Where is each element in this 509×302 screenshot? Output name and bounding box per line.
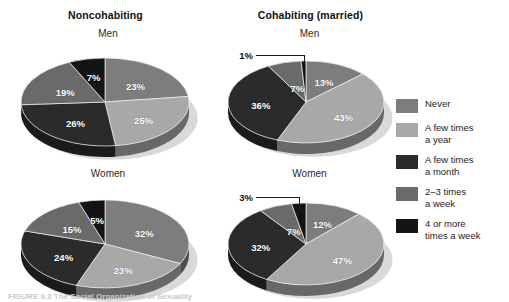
pie-top-faces [228,61,384,143]
pie-sublabel-noncohabiting-men: Men [8,28,208,39]
legend-label: 2–3 times a week [425,186,466,209]
legend-swatch [396,155,418,169]
pie-svg-cohabiting-men [222,28,397,140]
legend-label: A few times a month [425,154,474,177]
callout-tick [299,197,300,206]
legend-swatch [396,219,418,233]
pie-chart-figure: Noncohabiting Cohabiting (married) Men23… [0,0,509,302]
legend-swatch [396,123,418,137]
pie-sublabel-cohabiting-men: Men [222,28,397,39]
pie-slice[interactable] [21,102,115,146]
legend-item-1[interactable]: A few times a year [396,122,509,145]
pie-chart-noncohabiting-women: Women32%23%24%15%5% [8,168,208,288]
legend-label: Never [425,98,450,110]
group-title-cohabiting: Cohabiting (married) [218,9,403,21]
callout-label: 1% [239,50,253,61]
pie-slice[interactable] [105,58,188,102]
legend-item-3[interactable]: 2–3 times a week [396,186,509,209]
legend-item-2[interactable]: A few times a month [396,154,509,177]
pie-top-faces [21,200,189,288]
figure-caption: FIGURE 9.3 The Social Organization of Se… [8,292,192,301]
pie-svg-noncohabiting-women [8,168,208,288]
legend-swatch [396,99,418,113]
legend-label: 4 or more times a week [425,218,480,241]
pie-svg-cohabiting-women [222,168,397,288]
callout-tick [304,55,305,64]
pie-top-faces [228,203,384,285]
chart-legend: NeverA few times a yearA few times a mon… [396,98,509,250]
legend-label: A few times a year [425,122,474,145]
legend-item-0[interactable]: Never [396,98,509,113]
callout-label: 3% [239,192,253,203]
pie-svg-noncohabiting-men [8,28,208,140]
legend-swatch [396,187,418,201]
callout-line [256,197,299,198]
callout-line [256,55,304,56]
legend-item-4[interactable]: 4 or more times a week [396,218,509,241]
pie-sublabel-cohabiting-women: Women [222,168,397,179]
pie-chart-noncohabiting-men: Men23%25%26%19%7% [8,28,208,140]
pie-chart-cohabiting-men: Men13%43%36%7%1% [222,28,397,140]
pie-top-faces [21,58,189,146]
pie-chart-cohabiting-women: Women12%47%32%7%3% [222,168,397,288]
pie-sublabel-noncohabiting-women: Women [8,168,208,179]
group-title-noncohabiting: Noncohabiting [0,9,211,21]
